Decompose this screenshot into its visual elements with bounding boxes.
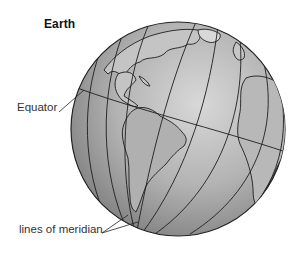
meridian-label: lines of meridian	[19, 223, 103, 235]
meridian-leader-1	[102, 215, 128, 233]
equator-label: Equator	[17, 101, 57, 113]
diagram-title: Earth	[44, 17, 75, 31]
meridian-leader-2	[102, 222, 138, 233]
globe	[71, 22, 292, 236]
earth-globe-diagram	[0, 0, 302, 254]
